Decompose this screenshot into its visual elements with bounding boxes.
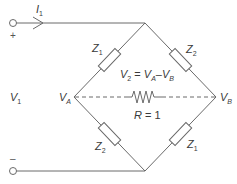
z-subscript: 2 [102, 147, 106, 154]
va-subscript: A [151, 75, 156, 82]
r-symbol: R [134, 109, 142, 121]
z-symbol: Z [92, 42, 99, 54]
impedance-label-top-left: Z1 [92, 43, 103, 54]
negative-terminal-icon [10, 168, 17, 175]
z-symbol: Z [187, 138, 194, 150]
vb-subscript: B [169, 75, 174, 82]
equals-sign: = [131, 68, 144, 80]
z-symbol: Z [186, 43, 193, 55]
load-resistor-label: R = 1 [134, 110, 161, 121]
current-subscript: 1 [39, 10, 43, 17]
z-subscript: 1 [194, 145, 198, 152]
positive-terminal-icon [10, 20, 17, 27]
node-b-subscript: B [227, 98, 232, 105]
impedance-label-bottom-right: Z1 [187, 139, 198, 150]
minus-sign: – [10, 154, 16, 164]
resistor-icon [132, 91, 154, 103]
current-label: I1 [36, 4, 43, 15]
input-voltage-subscript: 1 [17, 98, 21, 105]
node-a-subscript: A [66, 98, 71, 105]
r-value: = 1 [142, 109, 161, 121]
v2-subscript: 2 [127, 75, 131, 82]
impedance-label-top-right: Z2 [186, 44, 197, 55]
circuit-wiring [0, 0, 237, 184]
impedance-label-bottom-left: Z2 [95, 141, 106, 152]
node-a-label: VA [59, 92, 71, 103]
z-subscript: 2 [193, 50, 197, 57]
output-voltage-equation: V2 = VA–VB [120, 69, 174, 80]
plus-sign: + [10, 31, 16, 41]
z-symbol: Z [95, 140, 102, 152]
input-voltage-label: V1 [10, 92, 21, 103]
z-subscript: 1 [99, 49, 103, 56]
node-b-label: VB [220, 92, 232, 103]
bridge-circuit-diagram: I1 + – V1 VA VB Z1 Z2 Z2 Z1 V2 = VA–VB R… [0, 0, 237, 184]
